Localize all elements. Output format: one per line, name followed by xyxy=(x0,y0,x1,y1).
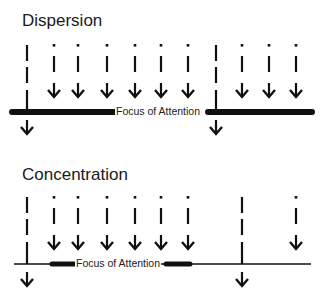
dispersion-short-arrow-8-dot xyxy=(295,44,298,47)
dispersion-short-arrow-6-dot xyxy=(241,44,244,47)
concentration-short-arrow-0-dot xyxy=(53,196,56,199)
concentration-short-arrow-4-dot xyxy=(160,196,163,199)
dispersion-short-arrow-1-dot xyxy=(77,44,80,47)
dispersion-short-arrow-5-dot xyxy=(187,44,190,47)
dispersion-short-arrow-3-dot xyxy=(134,44,137,47)
concentration-short-arrow-2-dot xyxy=(106,196,109,199)
concentration-title: Concentration xyxy=(22,166,128,183)
concentration-short-arrow-6-dot xyxy=(295,196,298,199)
concentration-focus-label: Focus of Attention xyxy=(75,258,161,269)
diagram-canvas xyxy=(0,0,323,299)
dispersion-short-arrow-4-dot xyxy=(160,44,163,47)
dispersion-title: Dispersion xyxy=(22,12,102,29)
dispersion-short-arrow-2-dot xyxy=(106,44,109,47)
dispersion-short-arrow-7-dot xyxy=(268,44,271,47)
concentration-short-arrow-5-dot xyxy=(187,196,190,199)
dispersion-focus-label: Focus of Attention xyxy=(115,106,201,117)
concentration-short-arrow-1-dot xyxy=(77,196,80,199)
concentration-short-arrow-3-dot xyxy=(134,196,137,199)
dispersion-short-arrow-0-dot xyxy=(53,44,56,47)
attention-diagram: Dispersion Focus of Attention Concentrat… xyxy=(0,0,323,299)
